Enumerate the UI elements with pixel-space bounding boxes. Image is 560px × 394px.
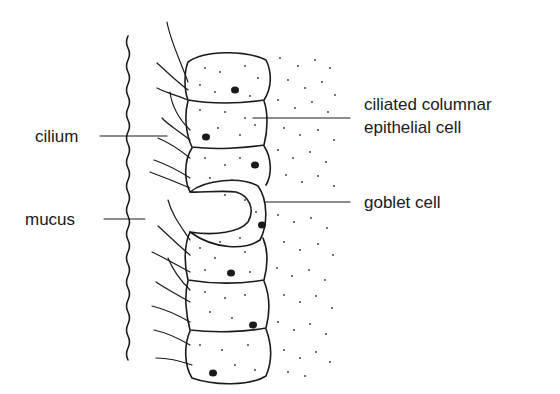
ciliated-cell-label-line2: epithelial cell [364, 118, 461, 138]
goblet-cell-label: goblet cell [364, 193, 441, 213]
stippling [199, 57, 336, 377]
epithelial-cell-7 [186, 329, 271, 384]
goblet-cell [190, 180, 266, 246]
nuclei [202, 87, 266, 377]
epithelial-cell-5 [185, 232, 267, 283]
epithelium-drawing [0, 0, 560, 394]
mucus-boundary [127, 36, 130, 360]
cilium-label: cilium [35, 127, 78, 147]
mucus-label: mucus [25, 210, 75, 230]
ciliated-cell-label-line1: ciliated columnar [364, 95, 492, 115]
respiratory-epithelium-diagram: cilium mucus ciliated columnar epithelia… [0, 0, 560, 394]
